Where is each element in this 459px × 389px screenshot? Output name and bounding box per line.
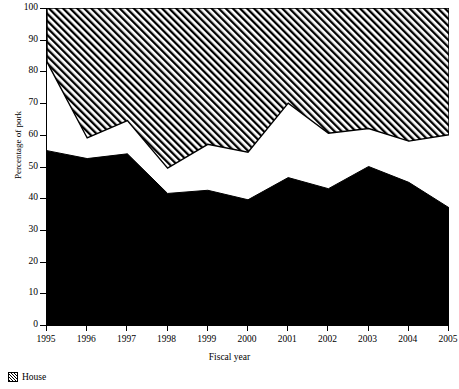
- x-axis-tick-label: 2001: [264, 334, 310, 345]
- y-axis-tick-label: 90: [0, 35, 38, 44]
- x-axis-tick-label: 1995: [23, 334, 69, 345]
- x-axis-tick-label: 2003: [345, 334, 391, 345]
- chart-legend: House: [8, 372, 46, 382]
- senate-area-series: [47, 151, 449, 325]
- y-axis-tick-label: 10: [0, 288, 38, 297]
- x-axis-tick-label: 2000: [224, 334, 270, 345]
- x-axis-tick-label: 1996: [63, 334, 109, 345]
- x-axis-tick-label: 2002: [304, 334, 350, 345]
- plot-area: [46, 8, 449, 326]
- area-chart-svg: [47, 8, 449, 325]
- y-axis-tick-label: 70: [0, 98, 38, 107]
- y-axis-tick-label: 60: [0, 130, 38, 139]
- y-axis-tick-label: 100: [0, 3, 38, 12]
- x-axis-tick-label: 1998: [144, 334, 190, 345]
- x-axis-tick: [287, 325, 288, 331]
- legend-label-house: House: [22, 372, 46, 382]
- house-area-series: [47, 8, 449, 168]
- x-axis-tick-label: 2004: [385, 334, 431, 345]
- x-axis-tick: [247, 325, 248, 331]
- x-axis-tick: [368, 325, 369, 331]
- y-axis-tick-label: 80: [0, 66, 38, 75]
- x-axis-tick-label: 1997: [103, 334, 149, 345]
- x-axis-tick: [408, 325, 409, 331]
- x-axis-tick: [46, 325, 47, 331]
- y-axis-tick-label: 30: [0, 225, 38, 234]
- x-axis-tick: [327, 325, 328, 331]
- x-axis-title: Fiscal year: [0, 352, 459, 362]
- y-axis-tick-label: 0: [0, 320, 38, 329]
- legend-swatch-house-icon: [8, 372, 18, 382]
- x-axis-tick-label: 2005: [425, 334, 459, 345]
- x-axis-tick: [167, 325, 168, 331]
- x-axis-tick: [86, 325, 87, 331]
- x-axis-tick-label: 1999: [184, 334, 230, 345]
- y-axis-tick-label: 20: [0, 257, 38, 266]
- y-axis-tick-label: 50: [0, 162, 38, 171]
- pork-percentage-area-chart: Percentage of pork 010203040506070809010…: [0, 0, 459, 389]
- x-axis-tick: [126, 325, 127, 331]
- x-axis-tick: [207, 325, 208, 331]
- x-axis-tick: [448, 325, 449, 331]
- y-axis-tick-label: 40: [0, 193, 38, 202]
